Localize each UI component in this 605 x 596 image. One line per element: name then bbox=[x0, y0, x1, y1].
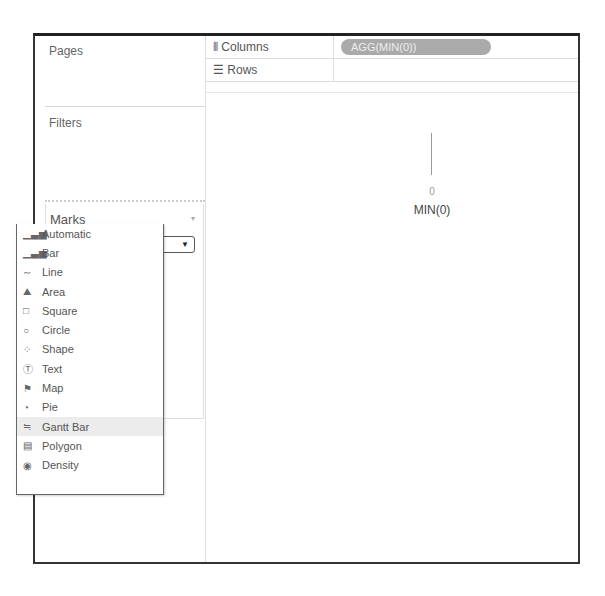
dropdown-item-polygon[interactable]: ▤Polygon bbox=[17, 436, 163, 455]
square-icon: □ bbox=[23, 305, 39, 316]
rows-shelf[interactable]: ☰ Rows bbox=[205, 59, 578, 82]
area-icon: ⛰ bbox=[23, 286, 39, 298]
dropdown-item-bar[interactable]: ▁▃▅Bar bbox=[17, 243, 163, 262]
pages-card[interactable]: Pages bbox=[45, 36, 205, 107]
dropdown-item-label: Circle bbox=[42, 324, 70, 336]
dropdown-item-label: Shape bbox=[42, 343, 74, 355]
axis-tick-line bbox=[431, 133, 432, 175]
map-icon: ⚑ bbox=[23, 383, 39, 394]
dropdown-item-map[interactable]: ⚑Map bbox=[17, 378, 163, 397]
dropdown-item-pie[interactable]: ◔Pie bbox=[17, 398, 163, 417]
dropdown-item-label: Automatic bbox=[42, 228, 91, 240]
column-pill[interactable]: AGG(MIN(0)) bbox=[341, 39, 491, 55]
view-area[interactable]: 0 MIN(0) bbox=[205, 92, 578, 562]
pie-icon: ◔ bbox=[23, 402, 39, 413]
shape-icon: ⁘ bbox=[23, 344, 39, 355]
filters-title: Filters bbox=[49, 116, 82, 130]
text-icon: Ⓣ bbox=[23, 361, 39, 376]
dropdown-item-density[interactable]: ◉Density bbox=[17, 456, 163, 475]
dropdown-item-label: Pie bbox=[42, 401, 58, 413]
axis-tick-label: 0 bbox=[425, 186, 439, 197]
dropdown-item-label: Gantt Bar bbox=[42, 421, 89, 433]
dropdown-item-gantt-bar[interactable]: ≒Gantt Bar bbox=[17, 417, 163, 436]
dropdown-item-area[interactable]: ⛰Area bbox=[17, 282, 163, 301]
shelf-divider bbox=[333, 36, 334, 58]
dropdown-item-label: Text bbox=[42, 363, 62, 375]
line-icon: ∼ bbox=[23, 267, 39, 278]
rows-icon: ☰ bbox=[213, 63, 224, 77]
dropdown-item-label: Line bbox=[42, 266, 63, 278]
bar-chart-icon: ▁▃▅ bbox=[23, 228, 39, 239]
dropdown-item-automatic[interactable]: ▁▃▅Automatic bbox=[17, 224, 163, 243]
dropdown-item-label: Area bbox=[42, 286, 65, 298]
dropdown-item-circle[interactable]: ○Circle bbox=[17, 320, 163, 339]
circle-icon: ○ bbox=[23, 325, 39, 336]
chevron-down-icon: ▼ bbox=[181, 240, 189, 249]
dropdown-item-square[interactable]: □Square bbox=[17, 301, 163, 320]
dropdown-item-line[interactable]: ∼Line bbox=[17, 263, 163, 282]
dropdown-item-label: Square bbox=[42, 305, 77, 317]
polygon-icon: ▤ bbox=[23, 440, 39, 451]
marks-menu-caret-icon[interactable]: ▾ bbox=[191, 214, 195, 223]
density-icon: ◉ bbox=[23, 460, 39, 471]
dropdown-item-label: Polygon bbox=[42, 440, 82, 452]
dropdown-item-label: Map bbox=[42, 382, 63, 394]
pages-title: Pages bbox=[49, 44, 83, 58]
gantt-icon: ≒ bbox=[23, 421, 39, 432]
dropdown-item-text[interactable]: ⓉText bbox=[17, 359, 163, 378]
dropdown-item-label: Bar bbox=[42, 247, 59, 259]
columns-icon: ⦀ bbox=[213, 40, 218, 54]
rows-shelf-label: ☰ Rows bbox=[213, 63, 257, 77]
shelf-divider bbox=[333, 59, 334, 81]
columns-shelf[interactable]: ⦀ Columns AGG(MIN(0)) bbox=[205, 36, 578, 59]
columns-shelf-label: ⦀ Columns bbox=[213, 40, 269, 54]
dropdown-item-label: Density bbox=[42, 459, 79, 471]
bar-chart-icon: ▁▃▅ bbox=[23, 247, 39, 258]
filters-card[interactable]: Filters bbox=[45, 108, 205, 202]
axis-title[interactable]: MIN(0) bbox=[395, 203, 469, 217]
dropdown-item-shape[interactable]: ⁘Shape bbox=[17, 340, 163, 359]
mark-type-dropdown: ▁▃▅Automatic▁▃▅Bar∼Line⛰Area□Square○Circ… bbox=[16, 224, 164, 495]
